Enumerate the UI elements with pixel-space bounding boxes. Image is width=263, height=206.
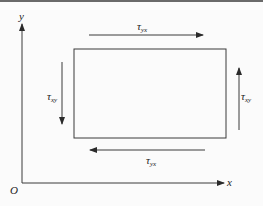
diagram-canvas: y x O τyx τyx τxy τxy <box>0 0 263 206</box>
top-shear-label: τyx <box>137 21 147 34</box>
origin-label: O <box>10 185 18 196</box>
bottom-shear-label: τyx <box>146 155 156 168</box>
stress-element-rectangle <box>74 49 226 138</box>
right-shear-label: τxy <box>241 91 251 104</box>
diagram-graphics <box>0 0 263 206</box>
left-shear-label: τxy <box>47 91 57 104</box>
y-axis-label: y <box>19 11 24 22</box>
x-axis-label: x <box>227 177 232 188</box>
